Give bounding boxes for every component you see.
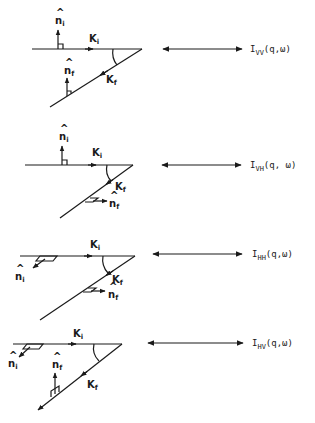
labels-hh: Ki ni ^ Kf nf ^ — [15, 239, 124, 302]
scattering-angle-arc — [107, 165, 111, 181]
ni-hat-icon: ^ — [60, 123, 68, 134]
ni-right-angle-mark — [62, 160, 67, 165]
kf-beam-line — [50, 49, 142, 107]
intensity-label-vv: IVV(q,ω) — [250, 44, 291, 57]
nf-hat-icon: ^ — [109, 281, 117, 292]
intensity-label-hv: IHV(q,ω) — [252, 338, 293, 351]
kf-direction-arrow — [106, 180, 113, 185]
scattering-angle-arc — [103, 256, 108, 273]
kf-label: Kf — [87, 379, 99, 392]
ki-label: Ki — [92, 147, 102, 160]
kf-beam-line — [38, 344, 122, 410]
labels-vv: ni ^ Ki nf ^ Kf — [55, 7, 118, 87]
intensity-label-hh: IHH(q,ω) — [252, 249, 293, 262]
diagram-vv — [32, 30, 142, 107]
ni-hat-icon: ^ — [56, 7, 64, 18]
scattering-angle-arc — [113, 49, 117, 65]
ki-label: Ki — [73, 328, 83, 341]
ni-vector — [33, 259, 45, 268]
diagram-hv — [13, 344, 122, 410]
scattering-angle-arc — [94, 344, 99, 361]
scattering-geometry-figure: ni ^ Ki nf ^ Kf IVV(q,ω) ni ^ Ki Kf nf ^… — [0, 0, 315, 423]
kf-label: Kf — [106, 74, 118, 87]
ni-plane-marker — [36, 256, 57, 261]
ki-label: Ki — [90, 239, 100, 252]
ni-hat-icon: ^ — [16, 263, 24, 274]
ni-plane-marker — [23, 344, 43, 349]
intensity-label-vh: IVH(q, ω) — [250, 160, 296, 173]
ki-label: Ki — [89, 33, 99, 46]
ni-right-angle-mark — [58, 44, 63, 49]
kf-beam-line — [40, 256, 135, 320]
nf-hat-icon: ^ — [110, 190, 118, 201]
kf-direction-arrow — [81, 372, 87, 377]
ni-hat-icon: ^ — [9, 350, 17, 361]
diagram-hh — [20, 256, 135, 320]
nf-hat-icon: ^ — [65, 57, 73, 68]
labels-hv: Ki ni ^ nf ^ Kf — [8, 328, 99, 392]
nf-hat-icon: ^ — [53, 351, 61, 362]
